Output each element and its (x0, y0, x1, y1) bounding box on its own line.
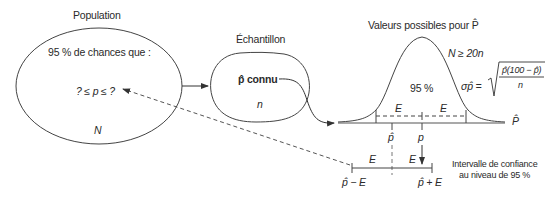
population-inequality: ? ≤ p ≤ ? (76, 85, 115, 97)
population-title: Population (73, 9, 121, 21)
interval-caption-line1: Intervalle de confiance (452, 159, 537, 169)
sigma-denominator: n (518, 80, 523, 90)
margin-label-left: E (395, 102, 402, 114)
sigma-numerator: p̂(100 − p̂) (502, 65, 541, 75)
population-size: N (94, 124, 101, 136)
sample-size: n (257, 98, 263, 110)
center-area-label: 95 % (410, 82, 433, 94)
interval-lower-bound: p̂ − E (342, 176, 366, 188)
estimate-tick-label: p̂ (388, 131, 394, 143)
interval-right-E: E (409, 153, 416, 165)
population-size-condition: N ≥ 20n (448, 47, 483, 59)
population-statement: 95 % de chances que : (48, 46, 151, 58)
sigma-lhs: σp̂ = (461, 80, 481, 92)
true-tick-label: p (418, 131, 424, 143)
distribution-title: Valeurs possibles pour P̂ (368, 19, 479, 31)
sample-title: Échantillon (236, 33, 285, 45)
sample-shape (211, 52, 310, 122)
sample-known-estimate: p̂ connu (238, 73, 277, 85)
interval-left-E: E (369, 153, 376, 165)
interval-caption-line2: au niveau de 95 % (459, 170, 530, 180)
axis-label: P̂ (512, 115, 519, 127)
margin-label-right: E (440, 102, 447, 114)
interval-upper-bound: p̂ + E (418, 176, 442, 188)
